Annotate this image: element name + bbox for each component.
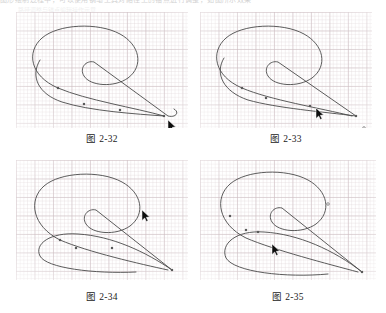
mouse-cursor-arrow xyxy=(142,210,150,222)
anchor-point[interactable] xyxy=(171,269,173,271)
vector-path-lower-edge xyxy=(225,232,362,275)
path-anchor-points[interactable] xyxy=(229,215,363,273)
path-handle-dot[interactable] xyxy=(327,203,330,206)
anchor-point[interactable] xyxy=(57,87,59,89)
anchor-point[interactable] xyxy=(119,109,121,111)
grid-panel-2-35 xyxy=(200,160,376,280)
vector-path-outline xyxy=(35,174,172,270)
vector-path-outline xyxy=(33,26,177,116)
mouse-cursor-arrow xyxy=(272,244,280,256)
cursor-arrow-icon xyxy=(272,244,280,256)
scanned-page: 图形绘制过程中，可以使用钢笔工具对路径上的锚点进行调整，如图所示效果 路径调整与… xyxy=(0,0,386,313)
cursor-arrow-icon xyxy=(142,210,150,222)
page-top-cut-text-line: 图形绘制过程中，可以使用钢笔工具对路径上的锚点进行调整，如图所示效果 xyxy=(0,0,386,4)
figure-caption-2-35: 图 2-35 xyxy=(200,289,376,303)
vector-path-lower-edge xyxy=(36,60,164,116)
anchor-point[interactable] xyxy=(309,105,311,107)
anchor-point[interactable] xyxy=(163,115,165,117)
anchor-point[interactable] xyxy=(75,247,77,249)
bezier-handle-dot[interactable] xyxy=(363,127,366,128)
anchor-point[interactable] xyxy=(59,239,61,241)
figure-caption-2-33: 图 2-33 xyxy=(200,131,372,145)
mouse-cursor-arrow xyxy=(168,120,176,128)
anchor-point[interactable] xyxy=(257,231,259,233)
vector-path-outline xyxy=(217,26,356,116)
anchor-point[interactable] xyxy=(355,115,357,117)
anchor-point[interactable] xyxy=(245,229,247,231)
anchor-point[interactable] xyxy=(83,103,85,105)
anchor-point[interactable] xyxy=(241,87,243,89)
figure-caption-2-34: 图 2-34 xyxy=(16,289,188,303)
figure-caption-2-32: 图 2-32 xyxy=(16,131,188,145)
path-handle-dot[interactable] xyxy=(363,127,366,128)
anchor-point[interactable] xyxy=(361,271,363,273)
path-artwork-2-32 xyxy=(16,12,188,128)
anchor-point[interactable] xyxy=(265,97,267,99)
bezier-handle-dot[interactable] xyxy=(327,203,330,206)
path-artwork-2-33 xyxy=(200,12,372,128)
anchor-point[interactable] xyxy=(111,247,113,249)
path-anchor-points[interactable] xyxy=(59,239,173,271)
path-artwork-2-34 xyxy=(16,160,188,280)
cursor-arrow-icon xyxy=(168,120,176,128)
path-artwork-2-35 xyxy=(200,160,376,280)
path-anchor-points[interactable] xyxy=(241,87,357,117)
grid-panel-2-33 xyxy=(200,12,372,128)
grid-panel-2-34 xyxy=(16,160,188,280)
page-top-cut-text: 图形绘制过程中，可以使用钢笔工具对路径上的锚点进行调整，如图所示效果 xyxy=(0,0,386,7)
anchor-point[interactable] xyxy=(229,215,231,217)
grid-panel-2-32 xyxy=(16,12,188,128)
